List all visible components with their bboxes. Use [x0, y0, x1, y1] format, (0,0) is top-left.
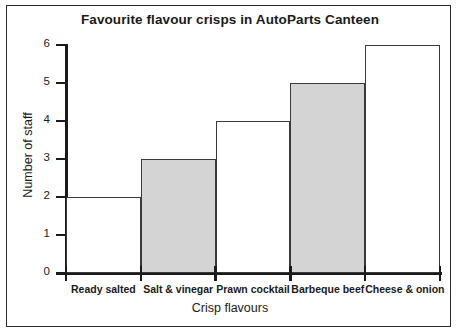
x-axis-tick	[364, 266, 367, 281]
bar	[365, 45, 440, 273]
x-axis-tick	[289, 266, 292, 281]
y-axis-tick	[56, 158, 66, 161]
y-axis-tick-label: 6	[28, 37, 50, 49]
category-label: Ready salted	[66, 283, 141, 295]
y-axis-tick	[56, 44, 66, 47]
bar	[216, 121, 291, 273]
y-axis-tick	[56, 196, 66, 199]
bar	[290, 83, 365, 273]
y-axis-title: Number of staff	[21, 80, 35, 230]
y-axis-tick	[56, 82, 66, 85]
x-axis-tick	[439, 266, 442, 281]
y-axis-tick	[56, 234, 66, 237]
x-axis-tick	[65, 266, 68, 281]
category-label: Barbeque beef	[290, 283, 365, 295]
bar	[66, 197, 141, 273]
x-axis-tick	[140, 266, 143, 281]
y-axis-tick	[56, 120, 66, 123]
x-axis-tick	[214, 266, 217, 281]
chart-title: Favourite flavour crisps in AutoParts Ca…	[0, 12, 460, 27]
category-label: Prawn cocktail	[216, 283, 291, 295]
x-axis-title: Crisp flavours	[0, 301, 460, 315]
category-label: Salt & vinegar	[141, 283, 216, 295]
chart-figure: Favourite flavour crisps in AutoParts Ca…	[0, 0, 460, 333]
bar	[141, 159, 216, 273]
category-label: Cheese & onion	[365, 283, 440, 295]
y-axis-tick-label: 0	[28, 265, 50, 277]
